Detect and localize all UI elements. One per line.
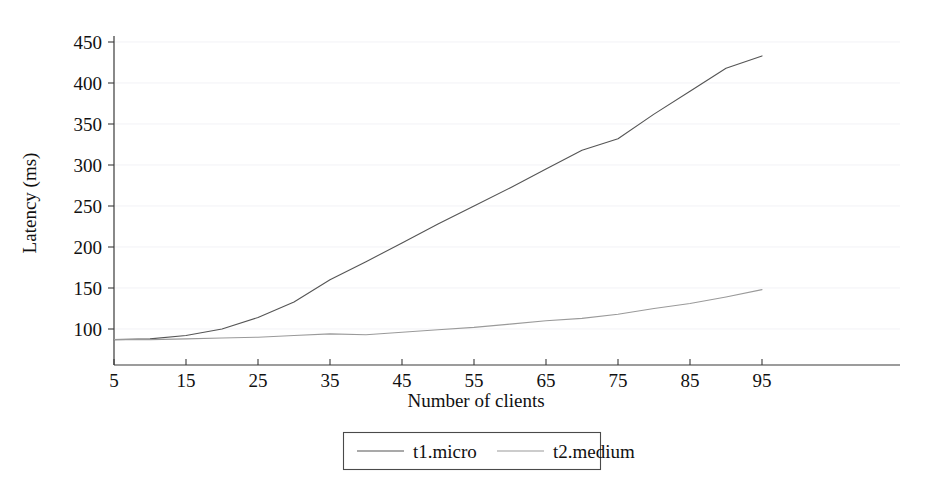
y-tick-label: 400: [74, 73, 103, 94]
y-tick-label: 300: [74, 155, 103, 176]
series-line-t1-micro: [114, 56, 762, 340]
x-tick-label: 65: [537, 370, 556, 391]
x-tick-label: 85: [681, 370, 700, 391]
y-tick-label: 200: [74, 237, 103, 258]
y-tick-label: 350: [74, 114, 103, 135]
series-line-t2-medium: [114, 290, 762, 340]
y-tick-label: 150: [74, 278, 103, 299]
x-axis-ticks: 5152535455565758595: [109, 359, 771, 391]
x-tick-label: 15: [177, 370, 196, 391]
legend-label-t2-medium: t2.medium: [553, 441, 635, 462]
x-axis-title: Number of clients: [407, 390, 544, 411]
y-axis-ticks: 100150200250300350400450: [74, 32, 115, 340]
y-tick-label: 250: [74, 196, 103, 217]
x-tick-label: 35: [321, 370, 340, 391]
chart-canvas: 5152535455565758595 10015020025030035040…: [0, 0, 932, 503]
y-axis-title: Latency (ms): [19, 153, 41, 254]
gridlines: [114, 42, 900, 329]
x-tick-label: 25: [249, 370, 268, 391]
y-tick-label: 450: [74, 32, 103, 53]
legend-label-t1-micro: t1.micro: [413, 441, 477, 462]
axis-lines: [114, 36, 900, 365]
x-tick-label: 75: [609, 370, 628, 391]
legend: t1.micro t2.medium: [344, 433, 636, 470]
x-tick-label: 95: [753, 370, 772, 391]
x-tick-label: 45: [393, 370, 412, 391]
y-tick-label: 100: [74, 319, 103, 340]
latency-line-chart-figure: 5152535455565758595 10015020025030035040…: [0, 0, 932, 503]
data-series: [114, 56, 762, 340]
x-tick-label: 55: [465, 370, 484, 391]
x-tick-label: 5: [109, 370, 119, 391]
